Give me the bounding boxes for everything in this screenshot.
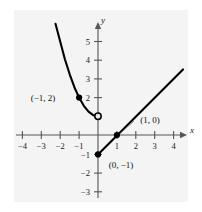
marker-open-point-0-1 [95,113,101,119]
marker-point-0--1 [95,151,101,157]
x-tick-label-1: 1 [115,141,119,151]
leader-line-point-1-0 [120,121,135,134]
y-tick-label-5: 5 [86,37,90,47]
x-tick-labels: −4 −3 −2 −1 1 2 3 4 [18,141,177,151]
graph-figure: y x −4 −3 −2 −1 1 2 3 4 5 4 3 2 −1 −2 −3 [0,0,202,212]
annotation-point-1-0: (1, 0) [140,115,160,125]
marker-point--1-2 [76,95,82,101]
coordinate-plane: y x −4 −3 −2 −1 1 2 3 4 5 4 3 2 −1 −2 −3 [0,0,202,212]
marker-point-1-0 [114,132,120,138]
x-axis-label: x [189,125,194,135]
curve-left-branch [56,24,99,117]
x-tick-label--4: −4 [18,141,28,151]
x-tick-label-2: 2 [134,141,138,151]
x-tick-label--3: −3 [37,141,46,151]
x-tick-label-3: 3 [153,141,157,151]
curve-right-branch [98,69,183,154]
y-tick-label-4: 4 [86,55,91,65]
y-tick-label-3: 3 [86,74,90,84]
y-tick-label-2: 2 [86,93,90,103]
y-tick-labels: 5 4 3 2 −1 −2 −3 [81,37,91,197]
x-tick-label-4: 4 [171,141,176,151]
annotation-point-0--1: (0, −1) [109,160,134,170]
x-tick-label--2: −2 [56,141,65,151]
y-tick-label--3: −3 [81,187,90,197]
axes-group [16,22,187,198]
y-tick-label--1: −1 [81,150,90,160]
y-axis-label: y [100,15,105,25]
y-tick-label--2: −2 [81,168,90,178]
annotation-point--1-2: (−1, 2) [31,93,56,103]
x-axis-arrow [180,132,187,138]
